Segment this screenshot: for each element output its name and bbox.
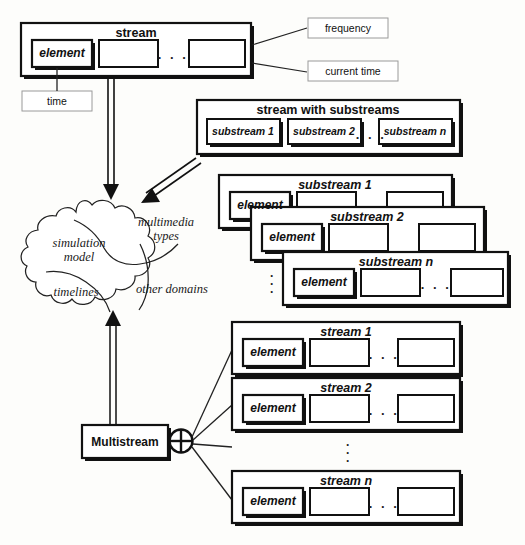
arrowhead-stream-to-cloud bbox=[103, 184, 119, 200]
stream-1-ellipsis: . . . bbox=[369, 347, 400, 362]
multistream-label: Multistream bbox=[91, 435, 158, 449]
multistream-fanout bbox=[192, 350, 232, 500]
substream-item-1: substream 1 bbox=[212, 125, 274, 137]
stream-box-title: stream bbox=[116, 26, 157, 40]
diagram-canvas: stream element . . . frequency current t… bbox=[0, 0, 525, 545]
time-label: time bbox=[47, 95, 67, 107]
stream-1-element-label: element bbox=[250, 345, 295, 359]
leader-frequency bbox=[252, 28, 307, 45]
circled-plus-icon bbox=[170, 430, 193, 453]
substreams-box-title: stream with substreams bbox=[256, 103, 399, 117]
current-time-label: current time bbox=[325, 65, 380, 77]
stream-n-ellipsis: . . . bbox=[369, 496, 400, 511]
substream-1-title: substream 1 bbox=[298, 178, 372, 192]
substream-item-n: substream n bbox=[384, 125, 446, 137]
stream-2-ellipsis: . . . bbox=[369, 403, 400, 418]
stream-box-ellipsis: . . . bbox=[158, 47, 189, 62]
substream-2-element-label: element bbox=[269, 230, 314, 244]
substream-item-2: substream 2 bbox=[293, 125, 355, 137]
cloud-label-other-domains: other domains bbox=[122, 283, 222, 297]
arrow-stream-to-cloud bbox=[108, 79, 114, 187]
frequency-label: frequency bbox=[325, 22, 371, 34]
substreams-box-ellipsis: . . . bbox=[356, 127, 387, 142]
cloud-label-simulation-model: simulationmodel bbox=[33, 237, 125, 264]
diagram-vector-layer bbox=[0, 0, 525, 545]
stream-element-label: element bbox=[39, 46, 84, 60]
cloud-label-timelines: timelines bbox=[38, 286, 114, 300]
stream-2-element-label: element bbox=[250, 401, 295, 415]
substream-n-title: substream n bbox=[359, 255, 433, 269]
stream-1-title: stream 1 bbox=[320, 325, 371, 339]
substream-1-element-label: element bbox=[237, 198, 282, 212]
leader-current-time bbox=[252, 63, 307, 72]
arrow-multistream-to-cloud bbox=[110, 324, 116, 425]
stream-n-title: stream n bbox=[320, 474, 372, 488]
substream-n-ellipsis: . . . bbox=[421, 277, 452, 292]
substream-n-element-label: element bbox=[301, 275, 346, 289]
stream-stack-vertical-ellipsis: · · · bbox=[346, 441, 350, 465]
arrowhead-substreams-to-cloud bbox=[141, 188, 160, 203]
arrowhead-multistream-to-cloud bbox=[105, 310, 121, 326]
substream-stack-vertical-ellipsis: · · · bbox=[270, 272, 274, 296]
stream-n-element-label: element bbox=[250, 494, 295, 508]
stream-2-title: stream 2 bbox=[320, 381, 371, 395]
cloud-label-multimedia-types: multimediatypes bbox=[118, 216, 214, 243]
substream-2-title: substream 2 bbox=[330, 210, 404, 224]
